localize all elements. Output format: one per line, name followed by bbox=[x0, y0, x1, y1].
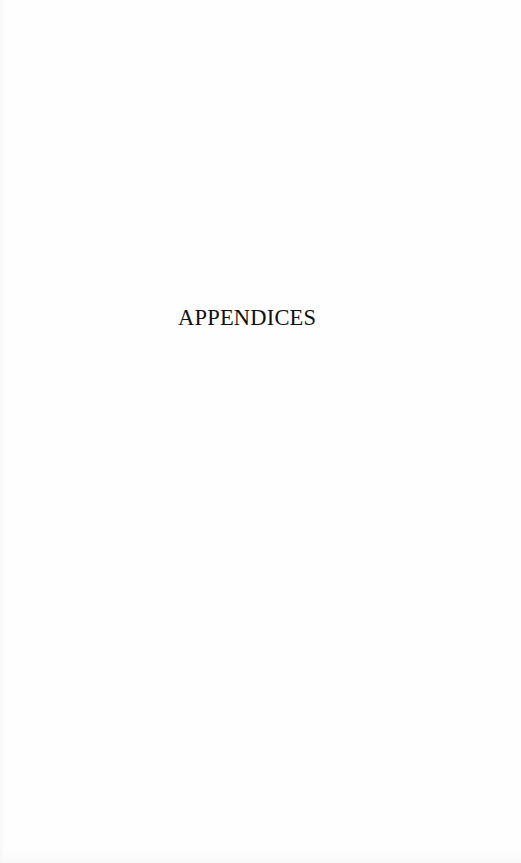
section-title: APPENDICES bbox=[178, 307, 316, 330]
document-page: APPENDICES bbox=[0, 0, 521, 863]
page-edge-shadow-bottom bbox=[0, 851, 521, 863]
page-edge-shadow-left bbox=[0, 0, 4, 863]
